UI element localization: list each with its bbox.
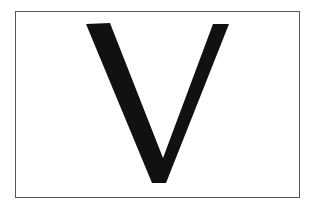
letter-v-glyph xyxy=(0,0,318,208)
